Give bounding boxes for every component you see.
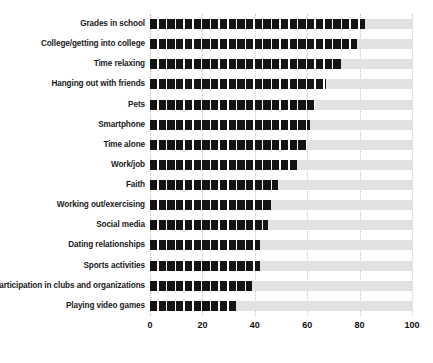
x-axis: 020406080100 <box>150 320 412 338</box>
bar-value <box>150 19 365 29</box>
bar-row <box>150 195 412 215</box>
category-label-row: Hanging out with friends <box>0 74 145 94</box>
category-label-row: Pets <box>0 95 145 115</box>
category-label: Time relaxing <box>94 54 145 74</box>
bar-value <box>150 220 268 230</box>
category-label: Dating relationships <box>68 235 145 255</box>
category-label: College/getting into college <box>41 34 145 54</box>
category-label-row: Time relaxing <box>0 54 145 74</box>
bar-fill <box>150 39 357 49</box>
category-label-row: Sports activities <box>0 256 145 276</box>
plot-area <box>150 14 412 316</box>
bar-row <box>150 14 412 34</box>
bar-row <box>150 175 412 195</box>
category-label: Hanging out with friends <box>51 74 145 94</box>
category-labels-column: Grades in schoolCollege/getting into col… <box>0 14 145 316</box>
bar-row <box>150 276 412 296</box>
category-label: Grades in school <box>80 14 145 34</box>
bar-row <box>150 235 412 255</box>
category-label: Playing video games <box>66 296 145 316</box>
bar-fill <box>150 261 260 271</box>
x-tick-label: 80 <box>355 320 365 330</box>
bar-fill <box>150 19 365 29</box>
category-label: Faith <box>126 175 145 195</box>
category-label: Sports activities <box>83 256 145 276</box>
bar-fill <box>150 281 252 291</box>
bar-row <box>150 256 412 276</box>
bar-row <box>150 155 412 175</box>
bar-fill <box>150 79 326 89</box>
bar-row <box>150 296 412 316</box>
bar-value <box>150 261 260 271</box>
category-label: Pets <box>128 95 145 115</box>
bar-chart: Grades in schoolCollege/getting into col… <box>0 0 433 363</box>
category-label-row: Dating relationships <box>0 235 145 255</box>
category-label-row: Working out/exercising <box>0 195 145 215</box>
bar-fill <box>150 220 268 230</box>
category-label: Participation in clubs and organizations <box>0 276 145 296</box>
bar-row <box>150 95 412 115</box>
category-label-row: Grades in school <box>0 14 145 34</box>
category-label-row: Participation in clubs and organizations <box>0 276 145 296</box>
bar-value <box>150 281 252 291</box>
bar-value <box>150 140 307 150</box>
bar-value <box>150 240 260 250</box>
bar-value <box>150 120 310 130</box>
x-tick-label: 100 <box>404 320 419 330</box>
category-label-row: Work/job <box>0 155 145 175</box>
category-label: Smartphone <box>98 115 145 135</box>
bar-fill <box>150 140 307 150</box>
bar-value <box>150 39 357 49</box>
bar-fill <box>150 240 260 250</box>
bar-fill <box>150 100 315 110</box>
category-label: Work/job <box>111 155 145 175</box>
bar-fill <box>150 160 297 170</box>
bar-row <box>150 34 412 54</box>
bar-value <box>150 79 326 89</box>
bar-value <box>150 301 236 311</box>
x-tick-label: 60 <box>302 320 312 330</box>
bar-value <box>150 59 341 69</box>
category-label-row: Smartphone <box>0 115 145 135</box>
category-label-row: Faith <box>0 175 145 195</box>
category-label: Time alone <box>103 135 145 155</box>
gridline-100 <box>412 14 413 316</box>
x-tick-label: 40 <box>250 320 260 330</box>
category-label: Social media <box>96 215 145 235</box>
bar-value <box>150 200 271 210</box>
category-label-row: College/getting into college <box>0 34 145 54</box>
category-label-row: Social media <box>0 215 145 235</box>
bar-fill <box>150 180 278 190</box>
x-tick-label: 0 <box>147 320 152 330</box>
bar-rows <box>150 14 412 316</box>
bar-fill <box>150 301 236 311</box>
bar-value <box>150 180 278 190</box>
category-label-row: Playing video games <box>0 296 145 316</box>
category-label-row: Time alone <box>0 135 145 155</box>
bar-row <box>150 215 412 235</box>
bar-row <box>150 115 412 135</box>
bar-row <box>150 54 412 74</box>
bar-value <box>150 100 315 110</box>
x-tick-label: 20 <box>197 320 207 330</box>
bar-row <box>150 135 412 155</box>
bar-fill <box>150 59 341 69</box>
bar-row <box>150 74 412 94</box>
bar-fill <box>150 120 310 130</box>
category-label: Working out/exercising <box>57 195 145 215</box>
bar-fill <box>150 200 271 210</box>
bar-value <box>150 160 297 170</box>
